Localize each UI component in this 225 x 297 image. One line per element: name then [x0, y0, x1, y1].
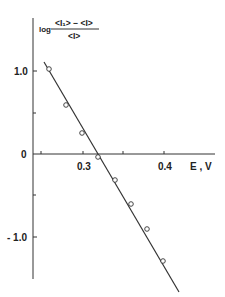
- x-tick-label-0-3: 0.3: [77, 161, 91, 172]
- data-point: [113, 178, 118, 183]
- y-axis-label-prefix: log: [39, 25, 51, 34]
- y-axis-label-denominator: <I>: [68, 31, 80, 41]
- x-tick-label-0-4: 0.4: [158, 161, 172, 172]
- y-tick-label-neg-1-0: - 1.0: [7, 232, 27, 243]
- data-point: [64, 103, 69, 108]
- data-point: [145, 227, 150, 232]
- y-tick-label-0: 0: [21, 149, 27, 160]
- data-point: [129, 202, 134, 207]
- x-axis-label: E , V: [190, 161, 212, 172]
- data-point: [161, 259, 166, 264]
- fit-line: [44, 62, 179, 292]
- y-tick-label-1-0: 1.0: [14, 66, 28, 77]
- data-point: [47, 67, 52, 72]
- chart: 1.0 0 - 1.0 0.3 0.4 E , V log <I₁> − <I>…: [0, 0, 225, 297]
- data-point: [80, 131, 85, 136]
- data-point: [96, 155, 101, 160]
- y-axis-label-numerator: <I₁> − <I>: [55, 18, 93, 28]
